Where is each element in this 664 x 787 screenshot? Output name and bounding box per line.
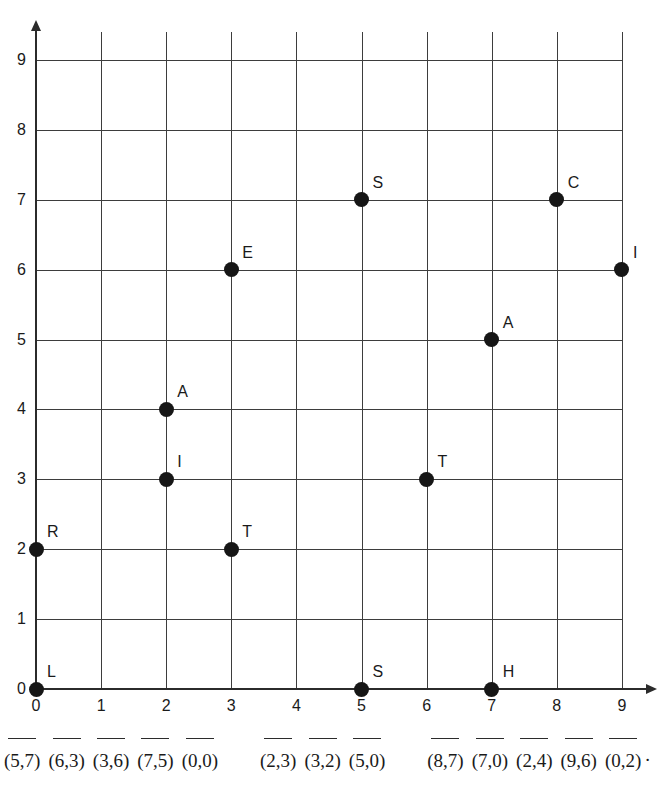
answer-group: (2,3)(3,2)(5,0) (256, 738, 389, 772)
gridline-vertical (622, 32, 623, 689)
coordinate-pair-label: (0,2) (605, 751, 641, 772)
answer-blank-line[interactable] (476, 738, 504, 750)
answer-item[interactable]: (8,7) (423, 738, 467, 772)
y-axis-tick-label: 8 (6, 122, 26, 138)
plotted-point (224, 542, 239, 557)
answer-item[interactable]: (7,5) (133, 738, 177, 772)
y-axis-tick-label: 3 (6, 471, 26, 487)
coordinate-pair-label: (7,0) (472, 751, 508, 772)
answer-item[interactable]: (0,0) (178, 738, 222, 772)
point-label: H (503, 664, 515, 680)
x-axis-tick-label: 0 (26, 698, 46, 714)
answer-blank-line[interactable] (309, 738, 337, 750)
coordinate-pair-label: (5,7) (4, 751, 40, 772)
point-label: L (47, 664, 56, 680)
gridline-horizontal (36, 340, 622, 341)
x-axis-tick-label: 8 (547, 698, 567, 714)
point-label: I (633, 245, 637, 261)
gridline-horizontal (36, 200, 622, 201)
answer-blank-line[interactable] (520, 738, 548, 750)
x-axis-tick-label: 5 (352, 698, 372, 714)
plotted-point (484, 682, 499, 697)
gridline-horizontal (36, 549, 622, 550)
answer-blank-line[interactable] (565, 738, 593, 750)
x-axis-tick-label: 2 (156, 698, 176, 714)
y-axis-tick-label: 1 (6, 611, 26, 627)
coordinate-pair-label: (8,7) (427, 751, 463, 772)
coordinate-pair-label: (2,3) (260, 751, 296, 772)
plotted-point (159, 402, 174, 417)
coordinate-pair-label: (2,4) (516, 751, 552, 772)
x-axis-tick-label: 4 (286, 698, 306, 714)
answer-item[interactable]: (5,0) (345, 738, 389, 772)
x-axis-tick-label: 1 (91, 698, 111, 714)
plotted-point (549, 192, 564, 207)
y-axis (35, 30, 37, 690)
answer-item[interactable]: (6,3) (44, 738, 88, 772)
coordinate-plane: 01234567890123456789LRIATESSTHACI (0, 0, 664, 730)
point-label: A (503, 315, 514, 331)
answer-blank-line[interactable] (97, 738, 125, 750)
plotted-point (484, 332, 499, 347)
answer-blank-line[interactable] (264, 738, 292, 750)
point-label: R (47, 524, 59, 540)
coordinate-pair-label: (3,2) (304, 751, 340, 772)
plotted-point (29, 682, 44, 697)
point-label: S (373, 175, 384, 191)
gridline-horizontal (36, 409, 622, 410)
answer-blank-line[interactable] (431, 738, 459, 750)
gridline-horizontal (36, 130, 622, 131)
answer-blank-line[interactable] (8, 738, 36, 750)
answer-blank-line[interactable] (141, 738, 169, 750)
point-label: A (177, 384, 188, 400)
plotted-point (159, 472, 174, 487)
answer-blank-line[interactable] (53, 738, 81, 750)
coordinate-grid-worksheet: 01234567890123456789LRIATESSTHACI (5,7)(… (0, 0, 664, 787)
answer-blank-line[interactable] (609, 738, 637, 750)
sentence-period: . (645, 738, 650, 766)
y-axis-arrow-icon (31, 20, 41, 31)
coordinate-pair-label: (9,6) (560, 751, 596, 772)
point-label: E (242, 245, 253, 261)
gridline-horizontal (36, 619, 622, 620)
y-axis-tick-label: 0 (6, 681, 26, 697)
gridline-horizontal (36, 479, 622, 480)
x-axis-tick-label: 3 (221, 698, 241, 714)
y-axis-tick-label: 9 (6, 52, 26, 68)
coordinate-pair-label: (3,6) (93, 751, 129, 772)
point-label: C (568, 175, 580, 191)
answer-item[interactable]: (2,3) (256, 738, 300, 772)
coordinate-pair-label: (0,0) (182, 751, 218, 772)
answer-item[interactable]: (3,2) (300, 738, 344, 772)
y-axis-tick-label: 5 (6, 332, 26, 348)
coordinate-pair-label: (7,5) (137, 751, 173, 772)
answer-item[interactable]: (0,2) (601, 738, 645, 772)
answer-item[interactable]: (5,7) (0, 738, 44, 772)
y-axis-tick-label: 7 (6, 192, 26, 208)
y-axis-tick-label: 6 (6, 262, 26, 278)
coordinate-pair-label: (6,3) (48, 751, 84, 772)
plotted-point (354, 682, 369, 697)
point-label: I (177, 454, 181, 470)
gridline-horizontal (36, 270, 622, 271)
answer-item[interactable]: (2,4) (512, 738, 556, 772)
x-axis-tick-label: 9 (612, 698, 632, 714)
y-axis-tick-label: 4 (6, 401, 26, 417)
answer-item[interactable]: (3,6) (89, 738, 133, 772)
plotted-point (354, 192, 369, 207)
x-axis-arrow-icon (646, 684, 657, 694)
coordinate-pair-label: (5,0) (349, 751, 385, 772)
x-axis-tick-label: 6 (417, 698, 437, 714)
answer-blank-line[interactable] (353, 738, 381, 750)
gridline-horizontal (36, 60, 622, 61)
plotted-point (29, 542, 44, 557)
answer-item[interactable]: (7,0) (468, 738, 512, 772)
point-label: T (242, 524, 252, 540)
answer-group: (8,7)(7,0)(2,4)(9,6)(0,2) (423, 738, 645, 772)
plotted-point (224, 262, 239, 277)
answer-item[interactable]: (9,6) (556, 738, 600, 772)
answer-blanks-row: (5,7)(6,3)(3,6)(7,5)(0,0)(2,3)(3,2)(5,0)… (0, 738, 664, 772)
answer-blank-line[interactable] (186, 738, 214, 750)
point-label: S (373, 664, 384, 680)
x-axis (36, 688, 648, 690)
